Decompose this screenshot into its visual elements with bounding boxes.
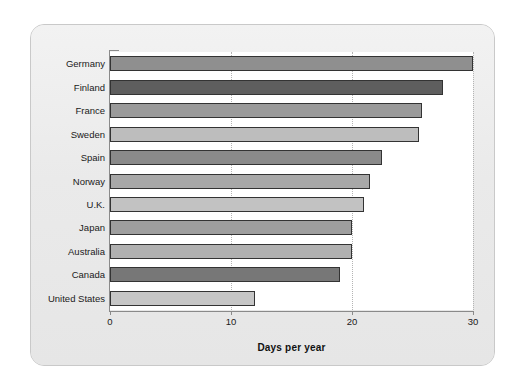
category-label: U.K. — [5, 197, 105, 212]
x-tick-mark-30 — [473, 311, 474, 315]
category-label: France — [5, 103, 105, 118]
category-label: Australia — [5, 244, 105, 259]
bar-row — [110, 103, 473, 118]
bar-canada — [110, 267, 340, 282]
bar-row — [110, 150, 473, 165]
bar-norway — [110, 174, 370, 189]
bar-finland — [110, 80, 443, 95]
bar-row — [110, 56, 473, 71]
category-label: Norway — [5, 174, 105, 189]
x-axis-label: Days per year — [110, 342, 473, 353]
plot-area — [110, 52, 473, 310]
x-tick-label-10: 10 — [216, 316, 246, 327]
y-axis-top-cap — [109, 50, 119, 51]
category-labels: GermanyFinlandFranceSwedenSpainNorwayU.K… — [4, 52, 105, 310]
bar-row — [110, 80, 473, 95]
bar-row — [110, 127, 473, 142]
bar-united-states — [110, 291, 255, 306]
x-tick-label-20: 20 — [337, 316, 367, 327]
bar-row — [110, 174, 473, 189]
category-label: Japan — [5, 220, 105, 235]
bar-spain — [110, 150, 382, 165]
category-label: Spain — [5, 150, 105, 165]
bar-row — [110, 244, 473, 259]
category-label: United States — [5, 291, 105, 306]
x-axis-line — [109, 311, 474, 312]
gridline-30 — [473, 52, 474, 310]
category-label: Sweden — [5, 127, 105, 142]
chart-figure: GermanyFinlandFranceSwedenSpainNorwayU.K… — [0, 0, 525, 388]
category-label: Finland — [5, 80, 105, 95]
bar-australia — [110, 244, 352, 259]
bar-row — [110, 267, 473, 282]
bar-japan — [110, 220, 352, 235]
bar-germany — [110, 56, 473, 71]
category-label: Canada — [5, 267, 105, 282]
bar-row — [110, 197, 473, 212]
category-label: Germany — [5, 56, 105, 71]
bar-u-k- — [110, 197, 364, 212]
bar-sweden — [110, 127, 419, 142]
x-tick-mark-10 — [231, 311, 232, 315]
y-axis-line — [109, 50, 110, 312]
bar-france — [110, 103, 422, 118]
x-tick-label-0: 0 — [95, 316, 125, 327]
x-tick-label-30: 30 — [458, 316, 488, 327]
bar-row — [110, 220, 473, 235]
x-tick-mark-0 — [110, 311, 111, 315]
x-tick-mark-20 — [352, 311, 353, 315]
bar-row — [110, 291, 473, 306]
